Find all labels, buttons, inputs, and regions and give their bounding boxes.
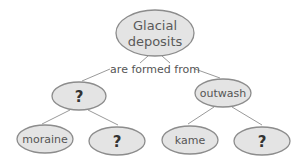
node-glacial-deposits: Glacial deposits bbox=[116, 10, 194, 56]
node-glacial-deposits-line1: Glacial bbox=[133, 18, 177, 33]
node-unknown-left-label: ? bbox=[75, 88, 84, 106]
node-unknown-left-child-label: ? bbox=[113, 133, 122, 151]
node-moraine: moraine bbox=[17, 125, 73, 153]
node-unknown-left: ? bbox=[52, 82, 106, 110]
node-kame: kame bbox=[162, 126, 218, 154]
node-unknown-right-child-label: ? bbox=[258, 133, 267, 151]
concept-map: Glacial deposits are formed from ? outwa… bbox=[0, 0, 308, 167]
node-kame-label: kame bbox=[175, 134, 206, 147]
edge-outwash-to-kame bbox=[188, 107, 214, 124]
node-outwash-label: outwash bbox=[200, 87, 246, 100]
node-unknown-left-child: ? bbox=[89, 127, 145, 155]
edge-root-to-link bbox=[140, 56, 148, 63]
node-outwash: outwash bbox=[195, 79, 251, 107]
edge-root-to-link-right bbox=[162, 56, 170, 63]
node-moraine-label: moraine bbox=[22, 133, 68, 146]
node-unknown-right-child: ? bbox=[234, 127, 290, 155]
node-glacial-deposits-line2: deposits bbox=[128, 34, 183, 49]
edge-outwash-to-unknown bbox=[232, 107, 262, 125]
link-label: are formed from bbox=[110, 63, 200, 76]
edge-link-to-left-node bbox=[82, 69, 110, 81]
edge-left-to-unknown bbox=[88, 110, 118, 125]
edge-left-to-moraine bbox=[42, 110, 70, 124]
